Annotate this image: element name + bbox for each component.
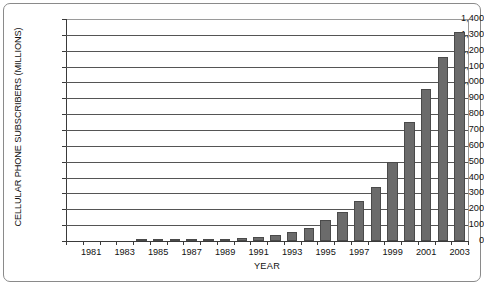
- bar: [270, 235, 280, 241]
- x-tick-mark: [66, 241, 67, 245]
- bar: [371, 187, 381, 241]
- bar-series: [66, 19, 468, 241]
- bar: [287, 232, 297, 242]
- bar: [404, 122, 414, 241]
- x-tick-mark: [200, 241, 201, 245]
- x-tick-mark: [267, 241, 268, 245]
- x-tick-mark: [317, 241, 318, 245]
- x-tick-mark: [116, 241, 117, 245]
- x-tick-mark: [183, 241, 184, 245]
- y-axis-title: CELLULAR PHONE SUBSCRIBERS (MILLIONS): [13, 4, 23, 250]
- x-tick-mark: [451, 241, 452, 245]
- bar: [320, 220, 330, 241]
- bar: [438, 57, 448, 241]
- bar: [387, 162, 397, 241]
- bar: [237, 238, 247, 241]
- x-tick-mark: [334, 241, 335, 245]
- x-tick-mark: [401, 241, 402, 245]
- x-tick-mark: [351, 241, 352, 245]
- bar: [170, 239, 180, 241]
- x-tick-mark: [301, 241, 302, 245]
- x-tick-mark: [150, 241, 151, 245]
- x-tick-mark: [284, 241, 285, 245]
- x-tick-label: 2003: [440, 247, 480, 257]
- bar: [136, 239, 146, 241]
- x-tick-mark: [384, 241, 385, 245]
- bar: [220, 239, 230, 241]
- chart-figure: CELLULAR PHONE SUBSCRIBERS (MILLIONS) 1,…: [0, 0, 484, 285]
- bar: [203, 239, 213, 241]
- x-tick-mark: [234, 241, 235, 245]
- x-axis-title: YEAR: [66, 261, 468, 271]
- x-tick-mark: [167, 241, 168, 245]
- x-tick-mark: [250, 241, 251, 245]
- bar: [421, 89, 431, 241]
- x-tick-mark: [217, 241, 218, 245]
- bar: [337, 212, 347, 241]
- bar: [454, 32, 464, 241]
- x-tick-mark: [100, 241, 101, 245]
- bar: [354, 201, 364, 241]
- x-tick-mark: [368, 241, 369, 245]
- x-tick-mark: [418, 241, 419, 245]
- bar: [153, 239, 163, 241]
- x-tick-mark: [83, 241, 84, 245]
- x-tick-mark: [133, 241, 134, 245]
- bar: [253, 237, 263, 241]
- bar: [186, 239, 196, 241]
- x-tick-mark: [468, 241, 469, 245]
- x-tick-mark: [435, 241, 436, 245]
- bar: [304, 228, 314, 241]
